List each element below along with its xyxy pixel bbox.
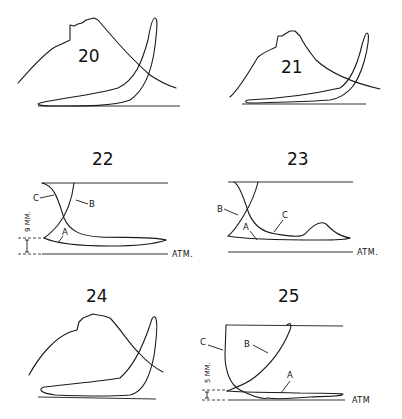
figure-22: 22 C B A ATM. 9 MM. (18, 149, 193, 259)
atm-label: ATM (352, 396, 370, 405)
volume-loop (41, 317, 157, 396)
label-a: A (287, 370, 293, 380)
curve-a (44, 238, 166, 246)
label-a: A (62, 227, 68, 237)
figure-number-25: 25 (278, 286, 300, 306)
atm-label: ATM. (172, 250, 193, 259)
label-b: B (89, 199, 95, 209)
scale-bracket (25, 240, 29, 252)
arrow-c (274, 220, 283, 232)
figure-number-24: 24 (86, 286, 108, 306)
curve-b (44, 183, 74, 238)
curve-b (234, 182, 350, 238)
figure-25: 25 C B A ATM 5 MM. (200, 286, 370, 405)
arrow-b (76, 200, 88, 204)
figure-23: 23 B C A ATM. (217, 149, 378, 257)
figure-number-22: 22 (92, 149, 114, 169)
label-a: A (243, 222, 249, 232)
scale-label: 5 MM. (204, 362, 212, 383)
baseline (38, 397, 156, 399)
top-line (226, 325, 343, 326)
figure-number-20: 20 (78, 46, 100, 66)
arrow-c (40, 195, 54, 198)
curve-a (227, 391, 343, 399)
arrow-a (281, 381, 290, 393)
arrow-c (208, 345, 223, 350)
figure-24: 24 (29, 286, 163, 399)
curve-c (225, 325, 268, 399)
label-c: C (282, 210, 288, 220)
curve-c (42, 183, 166, 240)
figure-21: 21 (230, 31, 380, 104)
figure-sheet: 20 21 22 C B A ATM. 9 MM. 23 (0, 0, 402, 419)
atm-label: ATM. (357, 248, 378, 257)
label-b: B (217, 204, 223, 214)
label-c: C (33, 193, 39, 203)
curve-a (228, 236, 350, 240)
arrow-b (224, 209, 238, 215)
curve-b (227, 324, 291, 391)
figure-number-21: 21 (281, 57, 303, 77)
volume-loop (246, 33, 369, 103)
label-c: C (200, 337, 206, 347)
arrow-a (58, 236, 63, 243)
figure-20: 20 (18, 18, 180, 106)
label-b: B (244, 339, 250, 349)
scale-label: 9 MM. (24, 211, 32, 232)
arrow-b (253, 345, 268, 353)
scale-bracket (205, 392, 209, 398)
pressure-curve (230, 31, 380, 97)
figure-number-23: 23 (287, 149, 309, 169)
